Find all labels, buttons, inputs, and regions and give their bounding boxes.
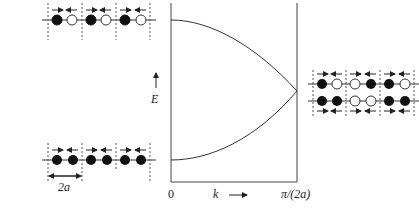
atom-filled <box>317 96 327 106</box>
atom-open <box>101 15 111 25</box>
atom-filled <box>86 155 96 165</box>
atom-open <box>332 79 342 89</box>
atom-filled <box>102 155 112 165</box>
atom-filled <box>384 96 394 106</box>
chain-bottom-left: 2a <box>42 143 156 194</box>
chain-right-lower-row <box>308 96 419 111</box>
atom-filled <box>400 96 410 106</box>
atom-open <box>400 79 410 89</box>
atom-filled <box>52 155 62 165</box>
atom-filled <box>86 15 96 25</box>
lattice-constant-dimension: 2a <box>49 176 81 194</box>
atom-filled <box>136 155 146 165</box>
atom-filled <box>120 155 130 165</box>
x-axis-label: k <box>213 187 219 201</box>
atom-open <box>67 15 77 25</box>
chain-right <box>308 70 419 118</box>
diagram-canvas: E 0 k π/(2a) <box>0 0 419 218</box>
atom-filled <box>384 79 394 89</box>
chain-top-left <box>42 3 156 40</box>
atom-filled <box>332 96 342 106</box>
atom-filled <box>366 79 376 89</box>
y-axis-label: E <box>150 92 159 106</box>
atom-filled <box>120 15 130 25</box>
atom-filled <box>52 15 62 25</box>
atom-open <box>136 15 146 25</box>
atom-filled <box>317 79 327 89</box>
dispersion-plot: E 0 k π/(2a) <box>150 3 310 201</box>
atom-open <box>350 96 360 106</box>
atom-open <box>366 96 376 106</box>
chain-right-upper-row <box>308 74 419 89</box>
atom-open <box>350 79 360 89</box>
x-tick-zone-boundary: π/(2a) <box>281 187 310 201</box>
atom-filled <box>68 155 78 165</box>
lower-branch-curve <box>171 91 297 160</box>
upper-branch-curve <box>171 20 297 91</box>
lattice-constant-label: 2a <box>58 180 70 194</box>
x-tick-zero: 0 <box>168 187 174 201</box>
